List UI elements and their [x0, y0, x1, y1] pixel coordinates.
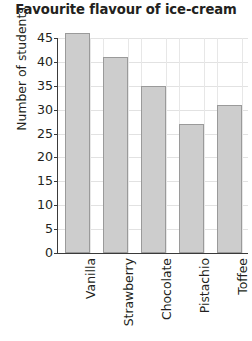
y-tick-mark: [54, 253, 58, 254]
bar-strawberry: [103, 57, 128, 253]
x-axis-label-chocolate: Chocolate: [159, 258, 175, 320]
y-tick-mark: [54, 181, 58, 182]
y-tick-label: 35: [37, 79, 53, 92]
gridline-vertical: [128, 38, 129, 253]
y-tick-label: 5: [45, 223, 53, 236]
x-axis-label-pistachio: Pistachio: [197, 258, 213, 313]
y-tick-label: 20: [37, 151, 53, 164]
plot-area: 051015202530354045: [57, 38, 248, 254]
gridline-vertical: [166, 38, 167, 253]
y-tick-label: 25: [37, 127, 53, 140]
gridline-vertical: [90, 38, 91, 253]
x-axis-label-toffee: Toffee: [235, 258, 251, 295]
y-tick-mark: [54, 62, 58, 63]
gridline-vertical: [242, 38, 243, 253]
gridline-vertical: [204, 38, 205, 253]
y-tick-label: 15: [37, 175, 53, 188]
y-tick-label: 0: [45, 247, 53, 260]
y-axis-title: Number of students: [13, 0, 31, 149]
y-tick-mark: [54, 110, 58, 111]
y-tick-label: 45: [37, 32, 53, 45]
y-tick-mark: [54, 157, 58, 158]
y-tick-label: 10: [37, 199, 53, 212]
bar-chocolate: [141, 86, 166, 253]
y-tick-label: 30: [37, 103, 53, 116]
y-tick-mark: [54, 205, 58, 206]
x-axis-label-vanilla: Vanilla: [83, 258, 99, 299]
bar-pistachio: [179, 124, 204, 253]
bar-toffee: [217, 105, 242, 253]
y-tick-label: 40: [37, 56, 53, 69]
y-tick-mark: [54, 229, 58, 230]
y-tick-mark: [54, 38, 58, 39]
bar-chart: Favourite flavour of ice-cream Number of…: [0, 0, 252, 341]
y-tick-mark: [54, 86, 58, 87]
y-tick-mark: [54, 134, 58, 135]
x-axis-label-strawberry: Strawberry: [121, 258, 137, 326]
bar-vanilla: [65, 33, 90, 253]
chart-title: Favourite flavour of ice-cream: [0, 2, 252, 17]
